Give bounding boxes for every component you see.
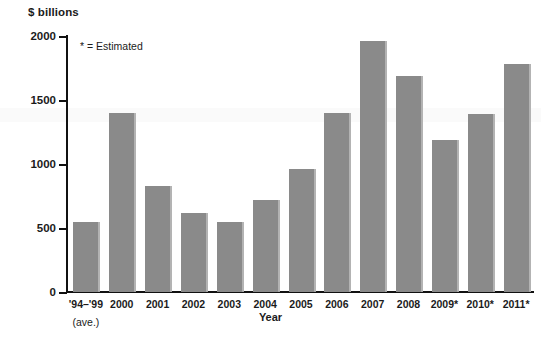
y-tick-label: 1500 xyxy=(30,94,56,106)
x-tick-label: 2010* xyxy=(466,298,493,310)
x-tick-label: 2003 xyxy=(218,298,241,310)
bar-group xyxy=(217,36,242,292)
bar xyxy=(109,113,134,292)
bar xyxy=(253,200,278,292)
bar-group xyxy=(324,36,349,292)
tick-mark-icon xyxy=(59,100,67,102)
x-tick-label: 2001 xyxy=(146,298,169,310)
bar xyxy=(360,41,385,292)
bar xyxy=(289,169,314,292)
x-tick-label: 2009* xyxy=(431,298,458,310)
bar-group xyxy=(109,36,134,292)
bar-group xyxy=(253,36,278,292)
bar-group xyxy=(396,36,421,292)
x-tick-label: 2011* xyxy=(503,298,530,310)
plot-area: 0500100015002000 '94–'99(ave.)2000200120… xyxy=(66,36,532,292)
bar xyxy=(324,113,349,292)
tick-mark-icon xyxy=(59,164,67,166)
y-tick-label: 1000 xyxy=(30,158,56,170)
bar-group xyxy=(504,36,529,292)
bar xyxy=(468,114,493,292)
y-tick-label: 2000 xyxy=(30,30,56,42)
bar xyxy=(145,186,170,292)
tick-mark-icon xyxy=(59,228,67,230)
bar xyxy=(181,213,206,292)
x-tick-label: 2007 xyxy=(361,298,384,310)
bar-group xyxy=(145,36,170,292)
y-tick-label: 500 xyxy=(37,222,56,234)
bar-group xyxy=(181,36,206,292)
bar-group xyxy=(289,36,314,292)
x-tick-label: 2005 xyxy=(289,298,312,310)
bar-group xyxy=(468,36,493,292)
x-tick-label: '94–'99 xyxy=(69,298,103,310)
bar-group xyxy=(73,36,98,292)
bar xyxy=(504,64,529,292)
y-axis-title: $ billions xyxy=(28,6,79,18)
x-tick-label: 2004 xyxy=(253,298,276,310)
x-tick-label: 2008 xyxy=(397,298,420,310)
y-tick-label: 0 xyxy=(50,286,56,298)
bar xyxy=(396,76,421,292)
bar-group xyxy=(432,36,457,292)
x-tick-label: 2002 xyxy=(182,298,205,310)
tick-mark-icon xyxy=(59,292,67,294)
bar xyxy=(432,140,457,292)
x-tick-sublabel: (ave.) xyxy=(73,316,100,328)
bar xyxy=(217,222,242,292)
bar xyxy=(73,222,98,292)
tick-mark-icon xyxy=(59,36,67,38)
bar-chart: $ billions Year * = Estimated 0500100015… xyxy=(0,0,541,338)
x-tick-label: 2000 xyxy=(110,298,133,310)
x-tick-label: 2006 xyxy=(325,298,348,310)
bar-group xyxy=(360,36,385,292)
